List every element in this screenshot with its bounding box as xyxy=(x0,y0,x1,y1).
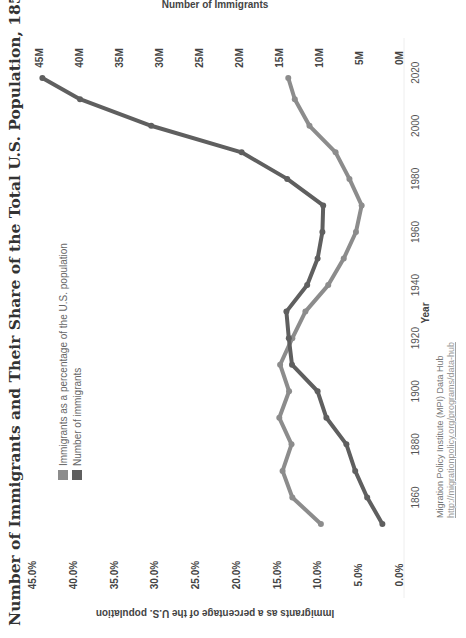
legend-label-percentage: Immigrants as a percentage of the U.S. p… xyxy=(58,243,69,466)
percentage-point xyxy=(302,309,308,315)
x-tick-label: 1960 xyxy=(410,220,421,243)
x-tick-label: 2000 xyxy=(410,114,421,137)
x-tick-label: 1880 xyxy=(410,433,421,456)
x-tick-label: 2020 xyxy=(410,61,421,84)
percentage-point xyxy=(359,202,365,208)
number-point xyxy=(286,335,292,341)
number-point xyxy=(239,149,245,155)
right-y-tick-label: 10M xyxy=(314,48,325,67)
percentage-point xyxy=(325,282,331,288)
number-point xyxy=(319,229,325,235)
number-point xyxy=(352,468,358,474)
percentage-point xyxy=(289,441,295,447)
percentage-point xyxy=(353,229,359,235)
left-y-tick-label: 30.0% xyxy=(149,561,160,589)
left-y-tick-label: 20.0% xyxy=(231,561,242,589)
left-y-tick-label: 45.0% xyxy=(27,561,38,589)
number-point xyxy=(315,256,321,262)
x-tick-label: 1980 xyxy=(410,167,421,190)
right-y-tick-label: 0M xyxy=(394,51,405,65)
left-y-tick-label: 0.0% xyxy=(394,563,405,586)
number-point xyxy=(284,176,290,182)
right-y-tick-label: 5M xyxy=(354,51,365,65)
left-y-tick-label: 5.0% xyxy=(353,563,364,586)
left-y-tick-label: 40.0% xyxy=(68,561,79,589)
chart-page: Number of Immigrants and Their Share of … xyxy=(0,0,466,638)
x-tick-label: 1920 xyxy=(410,327,421,350)
right-y-tick-label: 25M xyxy=(194,48,205,67)
percentage-point xyxy=(289,494,295,500)
left-y-tick-label: 35.0% xyxy=(109,561,120,589)
number-point xyxy=(304,282,310,288)
number-point xyxy=(289,362,295,368)
right-y-tick-label: 30M xyxy=(154,48,165,67)
left-y-tick-label: 15.0% xyxy=(272,561,283,589)
number-point xyxy=(39,75,45,81)
right-y-tick-label: 35M xyxy=(114,48,125,67)
percentage-point xyxy=(285,75,291,81)
number-point xyxy=(148,123,154,129)
percentage-point xyxy=(318,521,324,527)
right-y-tick-label: 40M xyxy=(74,48,85,67)
number-point xyxy=(315,388,321,394)
right-y-tick-label: 45M xyxy=(34,48,45,67)
number-point xyxy=(77,96,83,102)
percentage-point xyxy=(276,415,282,421)
right-y-tick-label: 15M xyxy=(274,48,285,67)
legend-swatch-number xyxy=(72,470,82,480)
source-text: Migration Policy Institute (MPI) Data Hu… xyxy=(435,355,445,518)
x-tick-label: 1900 xyxy=(410,380,421,403)
x-tick-label: 1860 xyxy=(410,486,421,509)
number-point xyxy=(320,202,326,208)
number-point xyxy=(283,309,289,315)
percentage-point xyxy=(306,123,312,129)
percentage-point xyxy=(346,176,352,182)
x-axis-title: Year xyxy=(420,302,431,323)
number-point xyxy=(323,415,329,421)
series-lines xyxy=(39,75,385,527)
left-y-tick-label: 25.0% xyxy=(190,561,201,589)
right-axis-title: Number of Immigrants xyxy=(162,0,269,10)
right-y-tick-label: 20M xyxy=(234,48,245,67)
percentage-point xyxy=(292,96,298,102)
number-line xyxy=(42,78,382,524)
percentage-point xyxy=(341,256,347,262)
left-y-tick-label: 10.0% xyxy=(312,561,323,589)
number-point xyxy=(364,494,370,500)
source-link[interactable]: http://migrationpolicy.org/programs/data… xyxy=(446,342,456,518)
chart-title: Number of Immigrants and Their Share of … xyxy=(5,0,24,626)
axes: 1860188019001920194019601980200020200.0%… xyxy=(27,38,421,598)
number-point xyxy=(343,441,349,447)
percentage-point xyxy=(280,468,286,474)
left-axis-title: Immigrants as a percentage of the U.S. p… xyxy=(96,608,334,619)
percentage-point xyxy=(277,362,283,368)
percentage-point xyxy=(286,388,292,394)
legend-label-number: Number of immigrants xyxy=(72,368,83,466)
line-chart: Number of Immigrants and Their Share of … xyxy=(0,0,466,638)
number-point xyxy=(379,521,385,527)
percentage-point xyxy=(333,149,339,155)
legend-swatch-percentage xyxy=(58,470,68,480)
legend: Immigrants as a percentage of the U.S. p… xyxy=(58,243,83,480)
x-tick-label: 1940 xyxy=(410,274,421,297)
